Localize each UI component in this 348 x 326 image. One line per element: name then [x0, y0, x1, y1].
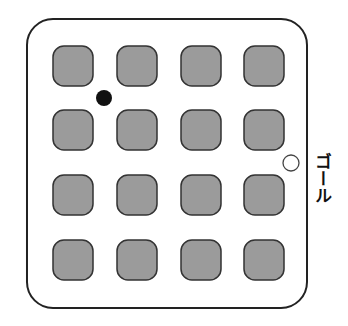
obstacle-block-r3-c2 [117, 175, 157, 215]
obstacle-block-r1-c1 [53, 46, 93, 86]
maze-diagram [0, 0, 348, 326]
obstacle-block-r2-c3 [181, 110, 221, 150]
obstacle-block-r3-c4 [244, 175, 284, 215]
obstacle-block-r1-c4 [244, 46, 284, 86]
obstacle-block-r2-c1 [53, 110, 93, 150]
obstacle-block-r4-c1 [53, 240, 93, 280]
obstacle-block-r3-c3 [181, 175, 221, 215]
obstacle-block-r2-c2 [117, 110, 157, 150]
goal-circle [283, 155, 299, 171]
start-dot [96, 90, 112, 106]
obstacle-block-r1-c3 [181, 46, 221, 86]
obstacle-block-r3-c1 [53, 175, 93, 215]
obstacle-block-r4-c4 [244, 240, 284, 280]
goal-label: ゴール [311, 153, 331, 204]
obstacle-block-r4-c3 [181, 240, 221, 280]
obstacle-block-r4-c2 [117, 240, 157, 280]
obstacle-block-r1-c2 [117, 46, 157, 86]
obstacle-block-r2-c4 [244, 110, 284, 150]
